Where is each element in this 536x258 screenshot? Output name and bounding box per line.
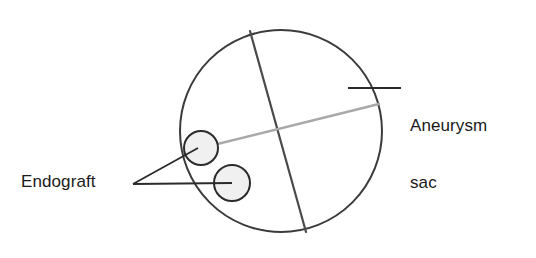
endograft-leader-line-lower (133, 183, 232, 184)
endograft-label: Endograft (21, 172, 131, 191)
aneurysm-sac-label-line1: Aneurysm (410, 116, 530, 135)
endograft-leader-line-upper (133, 148, 198, 184)
aneurysm-diagram-figure: Aneurysm sac Endograft (0, 0, 536, 258)
aneurysm-sac-label-line2: sac (410, 173, 530, 192)
aneurysm-sac-label: Aneurysm sac (410, 78, 530, 230)
endograft-limb-upper (184, 131, 218, 165)
dark-chord-line (250, 31, 306, 232)
aneurysm-sac-outline (180, 30, 382, 232)
